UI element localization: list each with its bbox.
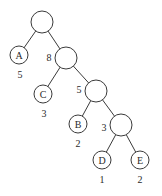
node-weight: 3 (42, 108, 47, 119)
node-weight: 5 (18, 69, 23, 80)
node-label: E (137, 155, 143, 166)
node-weight: 2 (138, 174, 143, 185)
node-label: B (75, 119, 82, 130)
node-root (31, 11, 53, 33)
node-n3: 3 (102, 114, 133, 136)
node-weight: 1 (100, 174, 105, 185)
node-label: D (98, 155, 105, 166)
node-B: B 2 (69, 115, 87, 149)
node-weight: 5 (77, 84, 82, 95)
faint-caption (30, 186, 130, 189)
node-n8: 8 (47, 47, 78, 69)
node-weight: 2 (76, 138, 81, 149)
node-A: A 5 (10, 46, 28, 80)
tree-diagram: A 5 8 C 3 5 B 2 3 D 1 E 2 (0, 0, 162, 196)
node-weight: 3 (102, 122, 107, 133)
node-label: C (40, 89, 47, 100)
node-weight: 8 (47, 52, 52, 63)
node-E: E 2 (131, 151, 149, 185)
node-C: C 3 (34, 85, 52, 119)
node-label: A (15, 50, 23, 61)
node-n5: 5 (77, 80, 108, 102)
node-D: D 1 (93, 151, 111, 185)
